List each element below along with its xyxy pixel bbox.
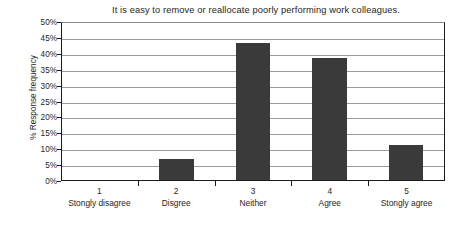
y-tick-label: 40% bbox=[31, 49, 57, 58]
y-tick-label: 20% bbox=[31, 113, 57, 122]
x-category-number: 2 bbox=[138, 186, 215, 197]
y-tick-label: 50% bbox=[31, 18, 57, 27]
x-category-name: Agree bbox=[291, 197, 368, 209]
x-tick-mark bbox=[368, 181, 369, 186]
x-category-name: Stongly agree bbox=[368, 197, 445, 209]
bar-slot bbox=[138, 23, 214, 180]
y-tick-label: 25% bbox=[31, 97, 57, 106]
bars-layer bbox=[62, 23, 444, 180]
bar-slot bbox=[291, 23, 367, 180]
x-category-4: 4Agree bbox=[291, 186, 368, 209]
bar-slot bbox=[62, 23, 138, 180]
x-axis-category-labels: 1Stongly disagree2Disgree3Neither4Agree5… bbox=[61, 186, 445, 226]
bar-chart: It is easy to remove or reallocate poorl… bbox=[0, 0, 456, 229]
y-tick-label: 0% bbox=[31, 177, 57, 186]
x-category-2: 2Disgree bbox=[138, 186, 215, 209]
bar[interactable] bbox=[159, 159, 193, 180]
bar-slot bbox=[215, 23, 291, 180]
x-category-5: 5Stongly agree bbox=[368, 186, 445, 209]
chart-title: It is easy to remove or reallocate poorl… bbox=[60, 5, 452, 15]
x-category-number: 1 bbox=[61, 186, 138, 197]
y-axis-tick-labels: 0%5%10%15%20%25%30%35%40%45%50% bbox=[29, 22, 57, 181]
x-tick-mark bbox=[291, 181, 292, 186]
y-tick-label: 15% bbox=[31, 129, 57, 138]
y-tick-label: 45% bbox=[31, 33, 57, 42]
plot-area bbox=[61, 22, 445, 181]
x-category-name: Disgree bbox=[138, 197, 215, 209]
x-tick-mark bbox=[215, 181, 216, 186]
y-tick-label: 10% bbox=[31, 145, 57, 154]
x-category-number: 4 bbox=[291, 186, 368, 197]
y-tick-label: 35% bbox=[31, 65, 57, 74]
x-category-1: 1Stongly disagree bbox=[61, 186, 138, 209]
x-category-number: 5 bbox=[368, 186, 445, 197]
bar-slot bbox=[368, 23, 444, 180]
x-category-name: Neither bbox=[215, 197, 292, 209]
y-tick-label: 30% bbox=[31, 81, 57, 90]
y-tick-label: 5% bbox=[31, 161, 57, 170]
x-category-name: Stongly disagree bbox=[61, 197, 138, 209]
x-category-number: 3 bbox=[215, 186, 292, 197]
x-tick-mark bbox=[138, 181, 139, 186]
x-category-3: 3Neither bbox=[215, 186, 292, 209]
bar[interactable] bbox=[389, 145, 423, 180]
bar[interactable] bbox=[236, 43, 270, 180]
bar[interactable] bbox=[312, 58, 346, 180]
